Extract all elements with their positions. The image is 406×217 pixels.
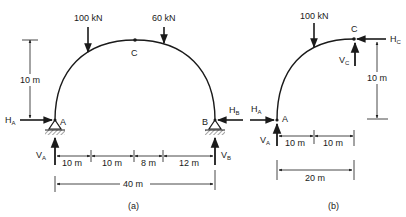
crown-label: C: [131, 48, 138, 58]
seg-dim-4: 12 m: [179, 158, 199, 168]
seg-dim-b-1: 10 m: [285, 138, 305, 148]
reaction-va-label: VA: [36, 150, 46, 161]
rise-dim-label-b: 10 m: [367, 73, 387, 83]
support-a-label-b: A: [282, 114, 288, 124]
span-dim-label-b: 20 m: [305, 173, 325, 183]
reaction-ha-label-b: HA: [251, 104, 262, 115]
seg-dim-b-2: 10 m: [323, 138, 343, 148]
load-label-100kn-b: 100 kN: [300, 11, 329, 21]
reaction-vc-label: VC: [339, 55, 350, 66]
reaction-hb-label: HB: [229, 105, 240, 116]
caption-b: (b): [328, 201, 339, 211]
rise-dim-label: 10 m: [20, 75, 40, 85]
crown-hinge-c: [133, 38, 137, 42]
figure-b: C 100 kN HC VC 10 m A HA VA 10 m 10 m: [250, 11, 402, 211]
support-a-label: A: [60, 117, 66, 127]
load-label-60kn: 60 kN: [152, 13, 176, 23]
figure-a: C 100 kN 60 kN 10 m A HA VA: [5, 13, 243, 211]
half-arch-curve: [277, 39, 354, 120]
seg-dim-2: 10 m: [102, 158, 122, 168]
reaction-hc-label: HC: [390, 34, 402, 45]
hinge-a-b: [275, 118, 278, 121]
seg-dim-1: 10 m: [62, 158, 82, 168]
caption-a: (a): [128, 201, 139, 211]
reaction-va-label-b: VA: [260, 135, 270, 146]
three-hinged-arch-figure: C 100 kN 60 kN 10 m A HA VA: [0, 0, 406, 217]
load-label-100kn: 100 kN: [74, 13, 103, 23]
reaction-ha-label: HA: [5, 115, 16, 126]
seg-dim-3: 8 m: [141, 158, 156, 168]
crown-label-b: C: [351, 24, 358, 34]
span-dim-label: 40 m: [123, 179, 143, 189]
crown-hinge-c-b: [352, 37, 356, 41]
reaction-vb-label: VB: [221, 150, 231, 161]
support-b-label: B: [202, 117, 208, 127]
